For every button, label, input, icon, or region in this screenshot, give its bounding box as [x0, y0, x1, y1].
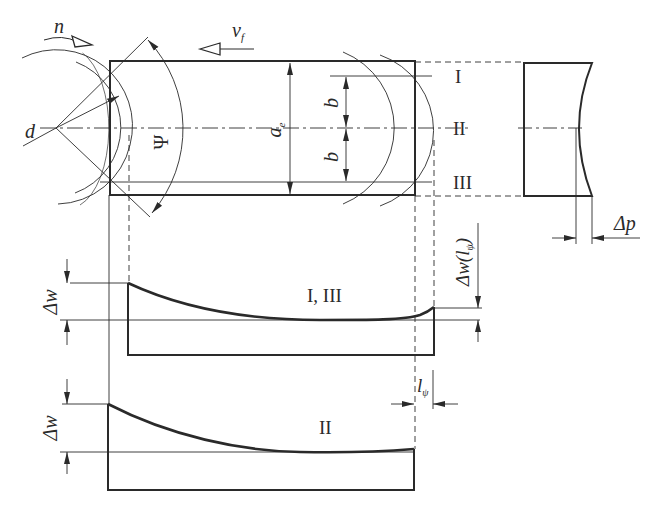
label-dw-2: Δw — [39, 415, 61, 442]
cutter-radius-lower — [56, 128, 150, 217]
profile-II-frame — [108, 404, 414, 490]
feed-arrowhead-icon — [200, 43, 220, 55]
label-n: n — [54, 15, 64, 37]
milling-diagram: n vf d Ψ ae b b I II III Δp I, III Δw Δw… — [0, 0, 654, 514]
top-view — [22, 36, 524, 449]
psi-arc — [148, 40, 183, 213]
label-dw-1: Δw — [39, 289, 61, 316]
label-section-I: I — [455, 66, 461, 87]
label-ae: ae — [263, 122, 287, 137]
label-d: d — [25, 120, 36, 142]
label-dp: Δp — [613, 212, 636, 235]
label-dw-lpsi: Δw(lψ) — [452, 238, 475, 287]
side-profile-outline — [524, 63, 592, 196]
label-psi: Ψ — [150, 134, 172, 149]
label-b-upper: b — [320, 98, 342, 108]
profile-I-III — [60, 223, 482, 355]
profile-I-III-curve — [128, 283, 434, 320]
profile-II-curve — [108, 404, 414, 452]
label-profile-I-III: I, III — [307, 285, 342, 306]
label-b-lower: b — [320, 152, 342, 162]
profile-II — [60, 370, 458, 490]
cutter-arc-inner — [75, 62, 121, 193]
label-section-III: III — [453, 172, 472, 193]
label-section-II: II — [453, 118, 466, 139]
cutter-arc-right-outer — [380, 55, 434, 206]
label-vf: vf — [232, 19, 246, 43]
label-profile-II: II — [319, 417, 332, 438]
rotation-arrowhead-icon — [72, 36, 92, 47]
label-lpsi: lψ — [417, 375, 429, 398]
cutter-arc-outer — [22, 50, 132, 204]
